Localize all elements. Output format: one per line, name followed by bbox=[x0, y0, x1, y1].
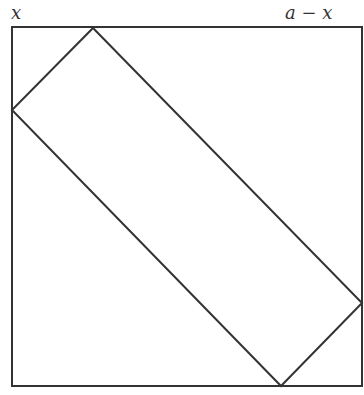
label-x: x bbox=[11, 2, 21, 23]
diagram: x a − x bbox=[0, 0, 364, 395]
outer-square bbox=[12, 27, 362, 386]
inscribed-rectangle bbox=[12, 28, 362, 386]
label-a-minus-x: a − x bbox=[285, 2, 332, 23]
